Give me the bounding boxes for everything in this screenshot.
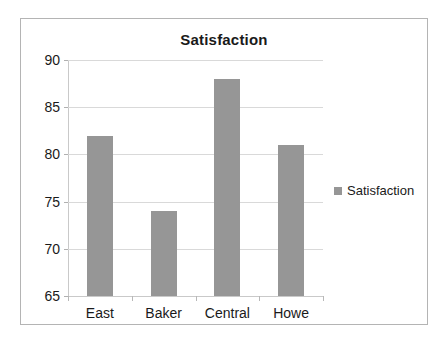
x-axis-tick-label: Howe: [273, 305, 309, 321]
x-axis-tick-mark: [132, 296, 133, 301]
bar: [214, 79, 240, 296]
chart-title: Satisfaction: [21, 31, 427, 48]
gridline: [68, 107, 323, 108]
y-axis-tick-label: 70: [44, 241, 60, 257]
y-axis-tick-label: 80: [44, 146, 60, 162]
x-axis-tick-mark: [323, 296, 324, 301]
y-axis-tick-mark: [64, 202, 68, 203]
y-axis-tick-mark: [64, 60, 68, 61]
chart-frame: Satisfaction 657075808590 EastBakerCentr…: [20, 18, 428, 325]
x-axis-tick-mark: [68, 296, 69, 301]
x-axis-tick-label: East: [86, 305, 114, 321]
bar: [87, 136, 113, 296]
y-axis-tick-mark: [64, 249, 68, 250]
legend-item-label: Satisfaction: [347, 183, 414, 198]
x-axis-tick-label: Central: [205, 305, 250, 321]
y-axis-line: [68, 60, 69, 296]
y-axis-tick-label: 75: [44, 194, 60, 210]
y-axis-tick-label: 65: [44, 288, 60, 304]
x-axis-tick-mark: [259, 296, 260, 301]
plot-area: 657075808590 EastBakerCentralHowe: [68, 60, 323, 296]
bar: [151, 211, 177, 296]
y-axis-tick-mark: [64, 107, 68, 108]
x-axis-tick-mark: [196, 296, 197, 301]
legend-swatch-icon: [334, 187, 342, 195]
chart-legend: Satisfaction: [334, 183, 414, 198]
y-axis-tick-mark: [64, 154, 68, 155]
y-axis-tick-label: 85: [44, 99, 60, 115]
y-axis-tick-label: 90: [44, 52, 60, 68]
x-axis-tick-label: Baker: [145, 305, 182, 321]
bar: [278, 145, 304, 296]
gridline: [68, 60, 323, 61]
